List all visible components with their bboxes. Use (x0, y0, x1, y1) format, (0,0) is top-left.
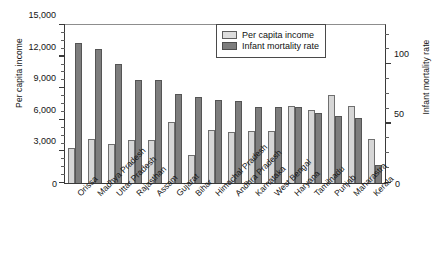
y-axis-right-minor-tick (385, 137, 389, 138)
y-axis-right-minor-tick (385, 34, 389, 35)
bar-group (188, 25, 202, 183)
y-axis-right-minor-tick (385, 152, 389, 153)
bar-infant-mortality-rate (75, 43, 82, 183)
chart-figure: Per capita income Infant mortality rate … (0, 0, 445, 273)
legend-swatch-income (222, 31, 237, 39)
y-axis-right-title: Infant mortality rate (421, 22, 431, 132)
bar-per-capita-income (208, 130, 215, 183)
legend-swatch-imr (222, 42, 237, 50)
y-axis-left-tick-label: 15,000 (28, 10, 56, 20)
y-axis-right-tick (385, 122, 391, 123)
y-axis-right-minor-tick (385, 108, 389, 109)
bar-group (88, 25, 102, 183)
y-axis-right-tick-label-0: 0 (395, 179, 400, 189)
legend-item-imr: Infant mortality rate (222, 41, 319, 51)
legend-label-imr: Infant mortality rate (242, 41, 319, 51)
bar-infant-mortality-rate (215, 100, 222, 183)
bar-group (108, 25, 122, 183)
y-axis-left-tick-label: 12,000 (28, 42, 56, 52)
bar-group (328, 25, 342, 183)
y-axis-left-tick-label: 9,000 (33, 73, 56, 83)
bar-group (168, 25, 182, 183)
x-axis-labels: OrissaMadhya PradeshUttar PradeshRajasth… (64, 188, 386, 273)
bar-infant-mortality-rate (95, 49, 102, 183)
y-axis-left-tick-label: 6,000 (33, 105, 56, 115)
y-axis-right-tick (385, 63, 391, 64)
y-axis-left-title: Per capita income (14, 18, 24, 128)
y-axis-right-tick-label: 50 (394, 109, 404, 119)
legend-item-income: Per capita income (222, 30, 319, 40)
bar-group (68, 25, 82, 183)
y-axis-right-minor-tick (385, 93, 389, 94)
legend: Per capita income Infant mortality rate (216, 24, 326, 58)
bar-group (348, 25, 362, 183)
y-axis-left-tick-label: 3,000 (33, 136, 56, 146)
bar-infant-mortality-rate (175, 94, 182, 183)
bar-per-capita-income (348, 106, 355, 183)
y-axis-right-minor-tick (385, 48, 389, 49)
y-axis-left-tick-label-0: 0 (52, 179, 57, 189)
bar-group (368, 25, 382, 183)
legend-label-income: Per capita income (242, 30, 314, 40)
y-axis-right-tick-label: 100 (394, 49, 409, 59)
bar-infant-mortality-rate (355, 118, 362, 183)
y-axis-right-minor-tick (385, 78, 389, 79)
bar-infant-mortality-rate (195, 97, 202, 183)
bar-per-capita-income (68, 148, 75, 183)
